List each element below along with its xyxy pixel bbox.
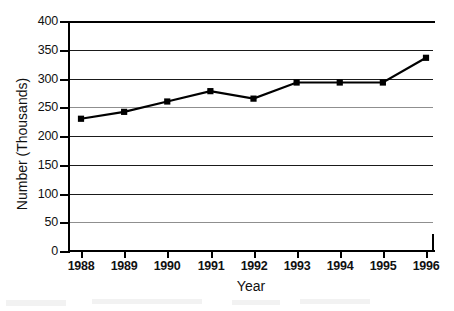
data-point-1996: 1996: 336 [423, 55, 429, 61]
data-point-1993: 1993: 293 [294, 79, 300, 85]
data-point-1995: 1995: 293 [380, 79, 386, 85]
series-markers: 1988: 2301989: 2421990: 2601991: 2781992… [78, 55, 429, 122]
data-point-1990: 1990: 260 [164, 98, 170, 104]
data-point-1992: 1992: 265 [250, 96, 256, 102]
data-point-1994: 1994: 293 [337, 79, 343, 85]
data-point-1991: 1991: 278 [207, 88, 213, 94]
data-point-1989: 1989: 242 [121, 109, 127, 115]
line-chart-figure: Number (Thousands) 400 350 300 250 200 1… [0, 0, 454, 311]
series-line [81, 58, 426, 119]
data-series-layer: 1988: 2301989: 2421990: 2601991: 2781992… [0, 0, 454, 311]
data-point-1988: 1988: 230 [78, 116, 84, 122]
x-axis-title: Year [68, 277, 434, 295]
